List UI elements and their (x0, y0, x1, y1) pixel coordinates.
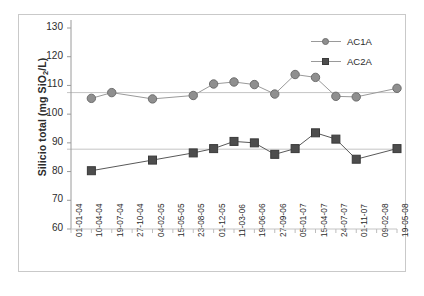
data-point-ac1a-5[interactable] (230, 78, 238, 86)
chart-container: Silicio total (mg SiO2/L) 60708090100110… (0, 0, 424, 296)
data-point-ac1a-2[interactable] (148, 95, 156, 103)
legend-marker-square-icon (311, 56, 341, 67)
data-point-ac2a-1[interactable] (149, 156, 157, 164)
legend-label-ac2a: AC2A (341, 56, 372, 67)
data-point-ac2a-7[interactable] (291, 145, 299, 153)
chart-legend: AC1A AC2A (311, 31, 393, 71)
data-point-ac2a-5[interactable] (250, 139, 258, 147)
data-point-ac2a-10[interactable] (352, 155, 360, 163)
data-point-ac1a-4[interactable] (209, 80, 217, 88)
data-point-ac1a-1[interactable] (108, 88, 116, 96)
series-line-ac1a (91, 75, 397, 99)
data-point-ac2a-3[interactable] (210, 145, 218, 153)
data-point-ac1a-9[interactable] (311, 73, 319, 81)
legend-marker-circle-icon (311, 36, 341, 47)
data-point-ac1a-11[interactable] (352, 93, 360, 101)
series-line-ac2a (91, 133, 397, 171)
data-point-ac1a-6[interactable] (250, 80, 258, 88)
data-point-ac1a-0[interactable] (87, 94, 95, 102)
data-point-ac2a-11[interactable] (393, 145, 401, 153)
data-point-ac2a-6[interactable] (271, 150, 279, 158)
data-point-ac2a-4[interactable] (230, 137, 238, 145)
legend-item-ac1a[interactable]: AC1A (311, 31, 393, 51)
chart-frame: Silicio total (mg SiO2/L) 60708090100110… (18, 14, 406, 272)
data-point-ac1a-3[interactable] (189, 91, 197, 99)
data-point-ac1a-8[interactable] (291, 70, 299, 78)
data-point-ac2a-8[interactable] (312, 129, 320, 137)
data-point-ac2a-0[interactable] (87, 167, 95, 175)
legend-item-ac2a[interactable]: AC2A (311, 51, 393, 71)
data-point-ac1a-7[interactable] (271, 90, 279, 98)
data-point-ac1a-12[interactable] (393, 84, 401, 92)
data-point-ac1a-10[interactable] (332, 92, 340, 100)
legend-label-ac1a: AC1A (341, 36, 372, 47)
data-point-ac2a-2[interactable] (189, 149, 197, 157)
data-point-ac2a-9[interactable] (332, 135, 340, 143)
